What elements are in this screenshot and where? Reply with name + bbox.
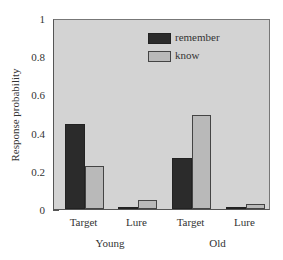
group-label: Old — [209, 237, 226, 249]
bar-know — [138, 200, 158, 209]
bar-remember — [65, 124, 85, 209]
y-tick-label: 0.4 — [31, 128, 45, 140]
legend-label: know — [175, 49, 199, 61]
bar-chart: Response probability 00.20.40.60.81 reme… — [0, 0, 283, 260]
plot-area: remember know — [53, 19, 270, 210]
y-tick-label: 0 — [40, 204, 46, 216]
legend-label: remember — [175, 31, 220, 43]
y-tick-label: 0.6 — [31, 89, 45, 101]
bar-remember — [226, 207, 246, 209]
x-tick-label: Target — [177, 216, 205, 228]
y-tick-label: 0.2 — [31, 166, 45, 178]
bar-remember — [172, 158, 192, 209]
x-tick-label: Lure — [126, 216, 147, 228]
y-tick — [53, 210, 59, 211]
y-tick-label: 1 — [40, 13, 46, 25]
bar-know — [246, 204, 266, 209]
bar-remember — [118, 207, 138, 209]
y-axis-label: Response probability — [9, 68, 21, 161]
x-tick-label: Target — [70, 216, 98, 228]
bar-know — [85, 166, 105, 209]
y-tick-label: 0.8 — [31, 51, 45, 63]
group-label: Young — [96, 237, 125, 249]
x-tick-label: Lure — [234, 216, 255, 228]
bar-know — [192, 115, 212, 210]
legend-swatch-remember — [148, 33, 171, 44]
legend-swatch-know — [148, 51, 171, 62]
